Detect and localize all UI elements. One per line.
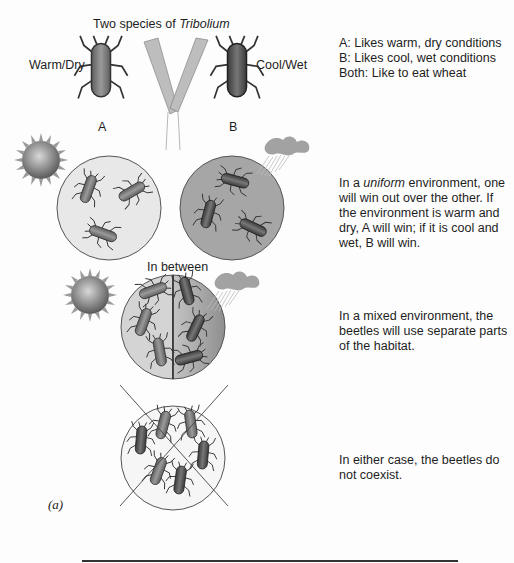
no-coexistence-circle <box>121 404 225 510</box>
sun-icon-mixed <box>63 268 117 322</box>
beetle-a-icon <box>74 36 127 99</box>
diagram-graphics <box>0 0 514 563</box>
warm-habitat-circle <box>57 156 161 260</box>
beetle-b-icon <box>210 36 263 99</box>
wheat-icon <box>144 38 208 150</box>
sun-icon-uniform <box>14 133 68 187</box>
cool-habitat-circle <box>180 156 284 260</box>
